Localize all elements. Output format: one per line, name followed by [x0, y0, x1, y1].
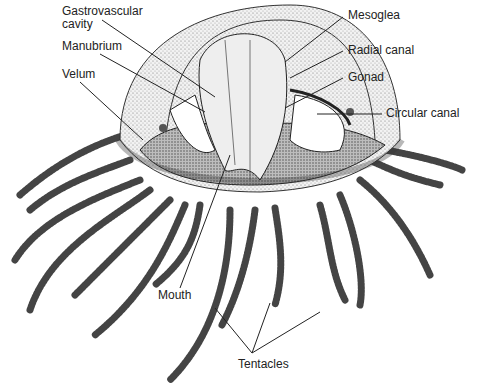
label-gastrovascular-cavity: Gastrovascular cavity — [62, 5, 143, 31]
jellyfish-diagram — [0, 0, 497, 384]
label-velum: Velum — [62, 68, 95, 81]
label-manubrium: Manubrium — [62, 40, 122, 53]
label-gonad: Gonad — [348, 71, 384, 84]
label-tentacles: Tentacles — [238, 358, 289, 371]
label-circular-canal: Circular canal — [386, 107, 459, 120]
bell — [118, 5, 402, 192]
label-radial-canal: Radial canal — [348, 44, 414, 57]
label-mesoglea: Mesoglea — [348, 9, 400, 22]
label-mouth: Mouth — [158, 289, 191, 302]
